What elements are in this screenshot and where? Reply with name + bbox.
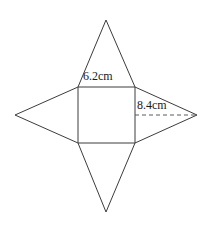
- bottom-triangle-face: [78, 143, 135, 212]
- square-base-face: [78, 87, 135, 143]
- geometry-figure: 6.2cm 8.4cm: [0, 0, 210, 234]
- pyramid-net-drawing: [0, 0, 210, 234]
- base-edge-dimension-label: 6.2cm: [83, 70, 113, 83]
- slant-height-dimension-label: 8.4cm: [137, 99, 167, 112]
- left-triangle-face: [15, 87, 78, 143]
